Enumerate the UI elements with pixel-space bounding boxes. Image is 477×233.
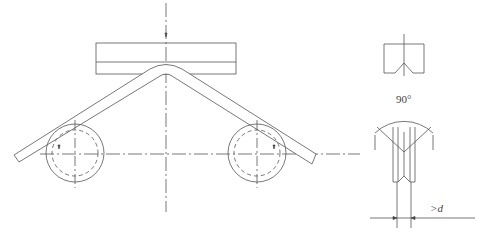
distance-label: >d <box>430 202 443 214</box>
rotation-arrow-icon <box>273 145 275 149</box>
bending-test-diagram: 90° >d <box>0 0 477 233</box>
rotation-arrow-icon <box>58 145 60 149</box>
diagram-canvas: 90° >d <box>0 0 477 233</box>
roller-side-view <box>370 121 475 228</box>
dim-arrow-icon <box>393 217 397 220</box>
angle-label: 90° <box>396 93 411 105</box>
punch-side-view <box>384 34 424 76</box>
dim-arrow-icon <box>411 217 415 220</box>
load-arrow-icon <box>165 33 167 37</box>
